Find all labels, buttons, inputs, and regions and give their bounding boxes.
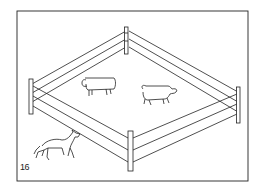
fence-rails [32, 31, 238, 162]
post-left [29, 79, 33, 114]
wolf [34, 130, 80, 160]
sheep-left [82, 78, 116, 96]
sheep-right [142, 85, 177, 105]
post-front [128, 131, 133, 171]
post-right [237, 87, 241, 123]
illustration [0, 0, 260, 192]
figure-number: 16 [20, 162, 29, 172]
post-back [125, 27, 129, 54]
